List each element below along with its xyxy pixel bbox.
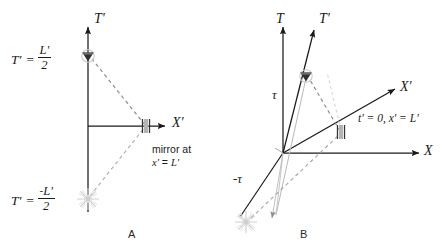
panel-a-emission-burst — [78, 189, 99, 210]
panel-a-mirror-note-equals: = — [162, 156, 168, 168]
panel-a-mirror-note-x: x' — [152, 157, 159, 168]
panel-b-mirror — [337, 125, 344, 139]
panel-b-t-prime-axis-label: T' — [319, 12, 330, 26]
panel-a-event-top-equals: = — [23, 53, 36, 67]
panel-b-x-prime-axis-label: X' — [400, 80, 412, 94]
panel-b-tau-positive-label: τ — [272, 88, 277, 101]
panel-a-t-axis-label: T' — [94, 12, 105, 26]
panel-a-event-bottom-denominator: 2 — [43, 199, 49, 213]
panel-b-tau-tick-upper — [275, 148, 283, 153]
panel-a-event-top-symbol: T' — [9, 53, 23, 67]
panel-b-t-axis-label: T — [276, 12, 284, 26]
panel-b-outgoing-light-ray — [251, 134, 340, 218]
panel-a-mirror-note-line2: x' = L' — [152, 156, 191, 169]
panel-b-tau-negative-label: -τ — [233, 172, 242, 185]
panel-a-event-bottom-fraction: -L' 2 — [38, 185, 55, 214]
panel-b-x-axis-label: X — [424, 144, 433, 158]
panel-a-mirror-note: mirror at x' = L' — [152, 143, 191, 169]
panel-a-event-bottom-label: T' = -L' 2 — [9, 186, 56, 215]
figure-root: T' X' T' = L' 2 T' = -L' 2 mirror at x' … — [0, 0, 447, 251]
panel-b-tau-segment — [276, 78, 306, 215]
panel-b-mirror-condition-label: t' = 0, x' = L' — [358, 113, 419, 125]
panel-b-detector — [300, 70, 312, 82]
panel-a-x-axis-label: X' — [172, 116, 184, 130]
diagram-canvas — [0, 0, 447, 251]
panel-a-caption: A — [128, 229, 135, 240]
panel-a-event-top-numerator: L' — [38, 44, 52, 58]
panel-a-event-bottom-numerator: L' — [43, 184, 53, 198]
panel-b-caption: B — [300, 229, 307, 240]
panel-b-mirror-worldline — [327, 72, 341, 130]
panel-a-event-top-denominator: 2 — [41, 58, 47, 72]
panel-a-event-top-label: T' = L' 2 — [9, 45, 52, 74]
panel-a-event-bottom-numerator-wrap: -L' — [38, 185, 55, 199]
panel-b-graphics — [236, 27, 420, 233]
panel-b-t-prime-axis — [283, 30, 314, 153]
panel-a-mirror-note-L: L' — [171, 157, 179, 168]
panel-a-event-bottom-equals: = — [23, 194, 36, 208]
panel-b-emission-burst — [236, 212, 257, 233]
panel-a-event-bottom-symbol: T' — [9, 194, 23, 208]
panel-a-event-top-fraction: L' 2 — [38, 44, 52, 73]
panel-a-graphics — [78, 27, 166, 212]
panel-a-event-bottom-sign: - — [40, 184, 44, 196]
panel-a-reflected-light-ray — [92, 59, 145, 125]
panel-a-outgoing-light-ray — [90, 127, 145, 196]
panel-a-mirror-note-line1: mirror at — [152, 143, 191, 156]
